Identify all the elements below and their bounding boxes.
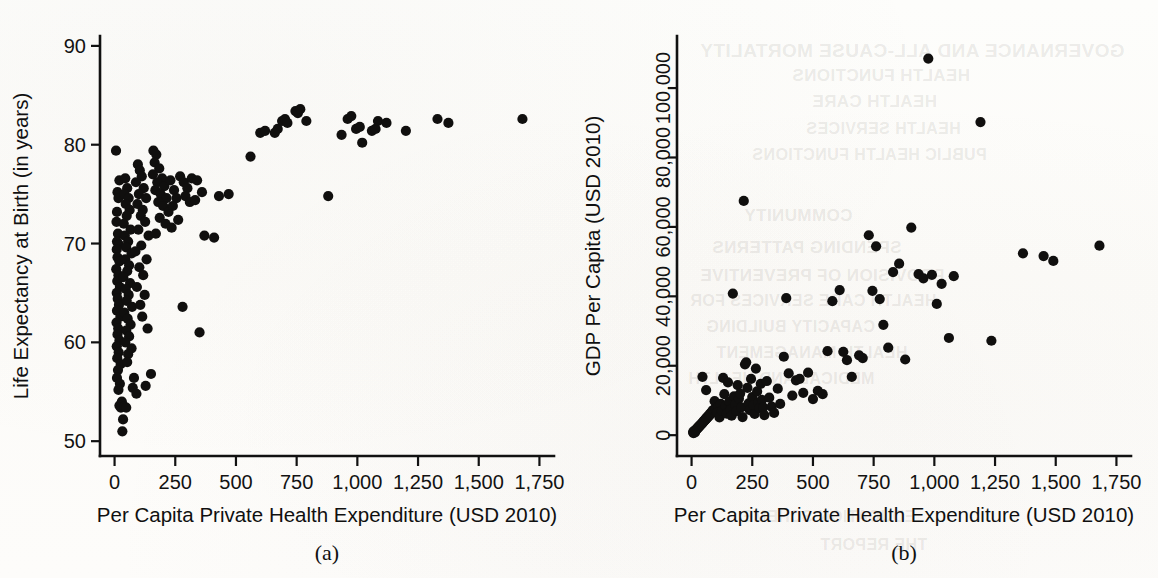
data-point — [197, 187, 207, 197]
x-tick-label: 1,000 — [332, 471, 382, 493]
y-tick-label: 60 — [64, 331, 86, 353]
data-point — [517, 114, 527, 124]
data-point — [1048, 256, 1058, 266]
data-point — [701, 385, 711, 395]
x-tick-label: 1,500 — [1031, 471, 1081, 493]
x-tick-label: 750 — [857, 471, 890, 493]
data-point — [986, 336, 996, 346]
panel-caption: (a) — [315, 540, 339, 565]
y-axis-title: GDP Per Capita (USD 2010) — [581, 116, 604, 377]
data-point — [142, 254, 152, 264]
data-point — [769, 408, 779, 418]
data-point — [118, 414, 128, 424]
data-point — [132, 282, 142, 292]
data-point — [798, 388, 808, 398]
data-point — [900, 354, 910, 364]
data-point — [381, 118, 391, 128]
figure-scatter-pair: 506070809002505007501,0001,2501,5001,750… — [0, 0, 1158, 578]
data-point — [781, 293, 791, 303]
data-point — [117, 426, 127, 436]
data-point — [871, 241, 881, 251]
data-point — [146, 369, 156, 379]
data-point — [1094, 241, 1104, 251]
data-point — [867, 286, 877, 296]
data-point — [373, 116, 383, 126]
x-tick-label: 0 — [109, 471, 120, 493]
data-point — [818, 389, 828, 399]
data-point — [177, 302, 187, 312]
data-point — [822, 346, 832, 356]
data-point — [131, 389, 141, 399]
x-tick-label: 250 — [159, 471, 192, 493]
data-point — [194, 327, 204, 337]
data-point — [323, 191, 333, 201]
x-tick-label: 1,000 — [909, 471, 959, 493]
x-tick-label: 1,500 — [454, 471, 504, 493]
data-point — [168, 201, 178, 211]
data-point — [742, 383, 752, 393]
data-point — [697, 372, 707, 382]
data-point — [336, 130, 346, 140]
data-point — [923, 53, 933, 63]
data-point — [112, 207, 122, 217]
data-point — [975, 117, 985, 127]
data-point — [224, 189, 234, 199]
data-point — [858, 353, 868, 363]
x-tick-label: 1,250 — [970, 471, 1020, 493]
data-point — [214, 191, 224, 201]
data-point — [759, 410, 769, 420]
y-tick-label: 70 — [64, 233, 86, 255]
data-point — [111, 146, 121, 156]
data-point — [937, 279, 947, 289]
panel-b-scatter-chart: 020,00040,00060,00080,000100,00002505007… — [578, 0, 1158, 578]
data-point — [751, 363, 761, 373]
x-tick-label: 500 — [796, 471, 829, 493]
data-point — [944, 333, 954, 343]
data-point — [113, 385, 123, 395]
x-tick-label: 1,750 — [1091, 471, 1141, 493]
x-axis-title: Per Capita Private Health Expenditure (U… — [97, 503, 557, 526]
data-point — [847, 372, 857, 382]
data-point — [129, 373, 139, 383]
data-point — [138, 270, 148, 280]
y-tick-label: 80 — [64, 134, 86, 156]
y-tick-label: 40,000 — [652, 266, 674, 327]
data-point — [135, 300, 145, 310]
data-point — [141, 381, 151, 391]
data-point — [209, 233, 219, 243]
x-tick-label: 500 — [219, 471, 252, 493]
data-point — [346, 111, 356, 121]
y-tick-label: 80,000 — [652, 127, 674, 188]
data-point — [130, 246, 140, 256]
data-point — [739, 196, 749, 206]
data-point — [773, 384, 783, 394]
data-point — [140, 217, 150, 227]
x-tick-label: 0 — [686, 471, 697, 493]
data-point — [827, 296, 837, 306]
data-point — [301, 116, 311, 126]
y-tick-label: 60,000 — [652, 196, 674, 257]
data-point — [199, 231, 209, 241]
data-point-group — [688, 53, 1105, 438]
data-point — [775, 399, 785, 409]
data-point — [140, 290, 150, 300]
x-tick-label: 750 — [280, 471, 313, 493]
panel-caption: (b) — [891, 540, 917, 565]
y-tick-label: 20,000 — [652, 335, 674, 396]
data-point — [762, 376, 772, 386]
panel-a-scatter-chart: 506070809002505007501,0001,2501,5001,750… — [0, 0, 578, 578]
data-point — [728, 288, 738, 298]
data-point — [875, 294, 885, 304]
data-point — [878, 320, 888, 330]
data-point — [835, 285, 845, 295]
data-point — [165, 175, 175, 185]
data-point — [121, 402, 131, 412]
data-point — [432, 114, 442, 124]
data-point-group — [111, 104, 528, 436]
x-tick-label: 1,250 — [393, 471, 443, 493]
data-point — [443, 118, 453, 128]
data-point — [167, 223, 177, 233]
x-tick-label: 250 — [736, 471, 769, 493]
data-point — [122, 357, 132, 367]
data-point — [894, 259, 904, 269]
